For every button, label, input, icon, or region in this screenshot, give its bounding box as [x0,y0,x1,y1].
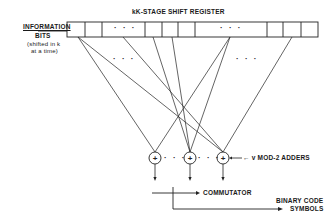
adders-label: ← v MOD-2 ADDERS [243,154,310,161]
adder-ellipsis-1: · · · [164,153,186,162]
mid-ellipsis-1: · · · [113,54,135,63]
input-label-bits: BITS [35,32,51,39]
input-label-shifted: (shifted in k [27,41,60,47]
adder-ellipsis-2: · · · [198,153,220,162]
shift-register [67,22,318,37]
output-label-binary-code: BINARY CODE [276,197,323,204]
svg-text:+: + [188,154,193,163]
mid-ellipsis-2: · · · [236,54,258,63]
register-ellipsis-1: · · · [114,23,136,32]
svg-text:+: + [153,154,158,163]
output-label-symbols: SYMBOLS [290,205,324,212]
input-label-information: INFORMATION [23,23,71,30]
svg-text:+: + [221,154,226,163]
input-label-at-a-time: at a time) [31,48,58,54]
tap-connections [78,37,292,152]
commutator-label: COMMUTATOR [203,189,252,196]
register-ellipsis-2: · · · [220,23,242,32]
register-title: kK-STAGE SHIFT REGISTER [132,8,225,15]
